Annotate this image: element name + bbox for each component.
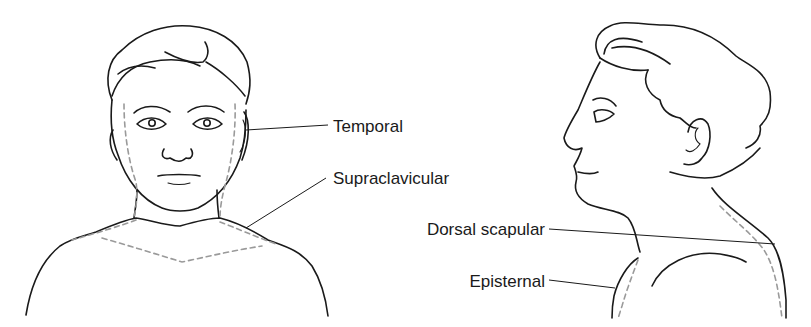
lateral-hair-wave [600, 58, 648, 70]
lateral-shoulder-curve [652, 253, 746, 286]
frontal-mouth [158, 175, 200, 177]
frontal-shoulders [26, 218, 328, 316]
lateral-dorsal-scapular-dashes [720, 206, 782, 318]
frontal-left-shoulder-dashes [72, 220, 136, 240]
episternal-leader-line [549, 280, 615, 288]
frontal-right-eyebrow [188, 106, 224, 112]
lateral-mouth [578, 172, 598, 174]
label-episternal: Episternal [469, 272, 545, 291]
frontal-temporal-dashes-left [124, 104, 137, 218]
lateral-eye [594, 110, 614, 122]
lateral-hair-curl [612, 47, 670, 64]
lateral-figure [564, 23, 786, 318]
dorsal-scapular-leader-line [549, 229, 775, 244]
frontal-left-ear [110, 130, 117, 160]
lateral-jaw [670, 148, 760, 178]
frontal-lower-lip [168, 183, 190, 185]
lateral-hair-back [646, 70, 696, 128]
label-temporal: Temporal [333, 117, 403, 136]
lateral-back-neck [712, 188, 786, 318]
supraclavicular-leader-line [246, 178, 326, 228]
lateral-episternal-dashes [618, 260, 638, 318]
frontal-right-pupil [204, 120, 210, 126]
frontal-hair [108, 26, 250, 104]
label-supraclavicular: Supraclavicular [333, 169, 450, 188]
frontal-left-pupil [149, 120, 155, 126]
temporal-leader-line [246, 125, 328, 130]
frontal-chest-dashes [102, 238, 262, 262]
anatomy-diagram: Temporal Supraclavicular Dorsal scapular… [0, 0, 811, 327]
lateral-hair [596, 23, 771, 148]
frontal-right-shoulder-dashes [220, 222, 276, 244]
lateral-chest-front [612, 258, 638, 318]
frontal-hair-detail [112, 60, 200, 96]
frontal-left-eyebrow [134, 106, 170, 113]
frontal-temporal-dashes-right [220, 104, 235, 218]
frontal-hair-side [206, 62, 245, 96]
lateral-eyebrow [593, 98, 616, 106]
frontal-face [111, 100, 246, 211]
frontal-figure [26, 26, 328, 316]
frontal-nose [162, 149, 192, 161]
label-dorsal-scapular: Dorsal scapular [427, 220, 545, 239]
lateral-face-profile [564, 62, 640, 252]
